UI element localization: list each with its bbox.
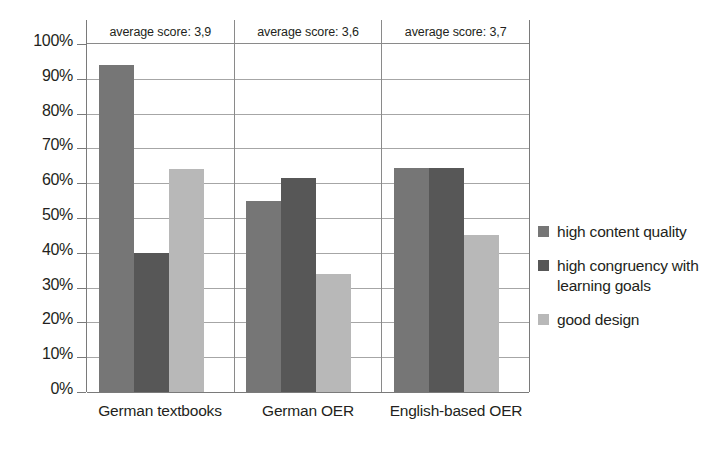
x-axis: German textbooks German OER English-base… [86,392,530,462]
y-axis-tick-mark [77,218,86,219]
y-axis-tick-mark [77,114,86,115]
bar-good-design[interactable] [169,169,204,392]
average-score-annotation: average score: 3,9 [87,20,234,43]
legend-item-high-congruency[interactable]: high congruency with learning goals [538,256,710,296]
y-axis-tick-label: 10% [42,345,73,363]
bar-chart: 100% 90% 80% 70% 60% 50% 40% 30% [0,0,715,472]
bar-groups [87,44,529,392]
bar-high-congruency[interactable] [429,168,464,392]
y-axis-tick-label: 80% [42,102,73,120]
y-axis-tick-mark [77,253,86,254]
y-axis-tick-mark [77,357,86,358]
bar-group-german-oer [234,44,381,392]
bar-group-english-based-oer [382,44,529,392]
y-axis: 100% 90% 80% 70% 60% 50% 40% 30% [0,44,86,392]
x-axis-tick-label: German OER [234,392,382,462]
bar-high-content-quality[interactable] [99,65,134,392]
bar-group-german-textbooks [87,44,234,392]
y-axis-tick-mark [77,288,86,289]
y-axis-tick-label: 20% [42,310,73,328]
average-score-annotation: average score: 3,7 [381,20,529,43]
x-axis-tick-label: English-based OER [382,392,530,462]
legend-swatch-icon [538,226,549,237]
legend-label: high content quality [557,222,687,242]
average-score-annotation: average score: 3,6 [234,20,382,43]
legend-item-high-content-quality[interactable]: high content quality [538,222,710,242]
bar-high-congruency[interactable] [134,253,169,392]
y-axis-tick-mark [77,148,86,149]
legend-swatch-icon [538,314,549,325]
y-axis-tick-mark [77,44,86,45]
bar-good-design[interactable] [464,235,499,392]
y-axis-tick-label: 40% [42,241,73,259]
y-axis-tick-label: 90% [42,67,73,85]
bar-high-content-quality[interactable] [394,168,429,392]
bars-canvas [87,44,529,392]
legend: high content quality high congruency wit… [538,222,710,344]
legend-item-good-design[interactable]: good design [538,310,710,330]
legend-label: good design [557,310,639,330]
legend-swatch-icon [538,260,549,271]
bar-good-design[interactable] [316,274,351,392]
y-axis-tick-mark [77,79,86,80]
y-axis-tick-label: 70% [42,136,73,154]
y-axis-tick-label: 100% [33,32,73,50]
x-axis-tick-label: German textbooks [86,392,234,462]
average-score-band: average score: 3,9 average score: 3,6 av… [87,20,529,44]
y-axis-tick-label: 50% [42,206,73,224]
y-axis-tick-mark [77,392,86,393]
y-axis-tick-label: 0% [50,380,73,398]
bar-high-content-quality[interactable] [246,201,281,392]
bar-high-congruency[interactable] [281,178,316,392]
y-axis-tick-label: 60% [42,171,73,189]
y-axis-tick-label: 30% [42,276,73,294]
plot-area: average score: 3,9 average score: 3,6 av… [86,20,530,392]
y-axis-tick-mark [77,183,86,184]
legend-label: high congruency with learning goals [557,256,710,296]
y-axis-tick-mark [77,322,86,323]
